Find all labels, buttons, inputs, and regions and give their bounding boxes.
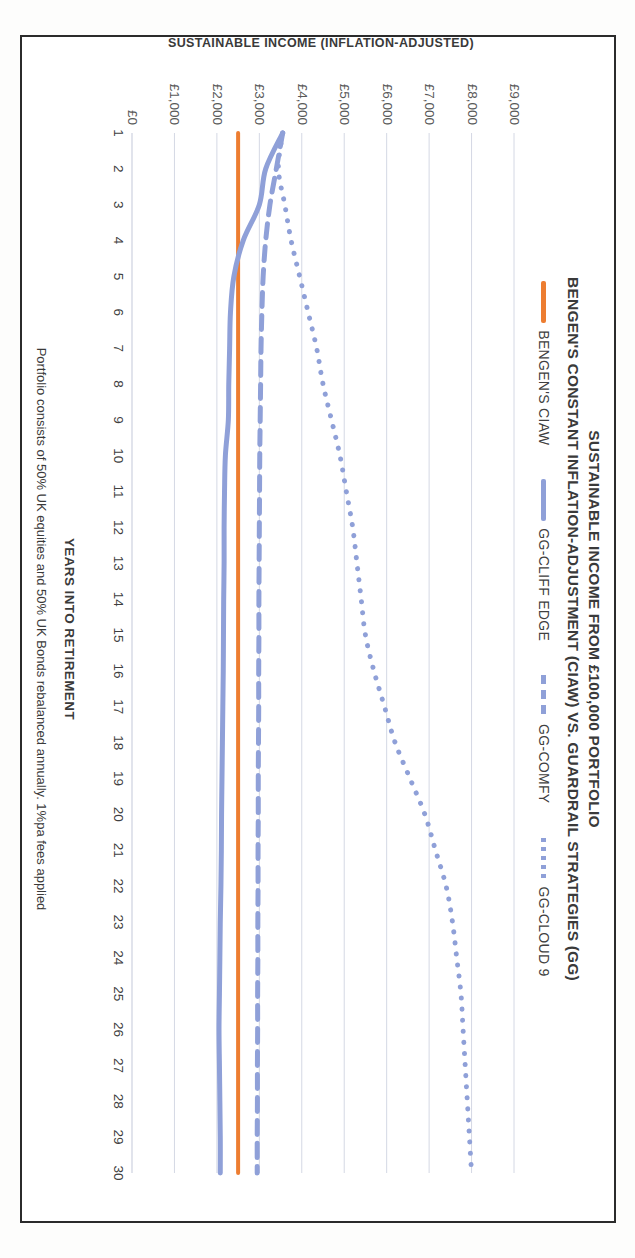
- chart-card: SUSTAINABLE INCOME FROM £100,000 PORTFOL…: [20, 35, 616, 1223]
- legend-swatch-icon: [541, 838, 546, 880]
- y-axis-tick-label: £3,000: [251, 84, 266, 125]
- x-axis-tick-label: 17: [111, 699, 126, 714]
- legend-label: GG-CLOUD 9: [536, 887, 552, 977]
- x-axis-tick-label: 26: [111, 1022, 126, 1037]
- x-axis-tick-label: 2: [111, 165, 126, 173]
- series-lines: [219, 133, 472, 1173]
- x-axis-tick-label: 1: [111, 129, 126, 137]
- legend-item[interactable]: BENGEN'S CIAW: [536, 281, 552, 445]
- x-axis-tick-label: 11: [111, 485, 126, 499]
- chart-legend: BENGEN'S CIAWGG-CLIFF EDGEGG-COMFYGG-CLO…: [536, 37, 552, 1221]
- plot-svg: [132, 133, 514, 1173]
- x-axis-tick-label: 21: [111, 843, 126, 858]
- y-axis-tick-label: £0: [124, 110, 139, 125]
- legend-swatch-icon: [541, 281, 546, 323]
- legend-label: BENGEN'S CIAW: [536, 330, 552, 445]
- y-axis-tick-label: £1,000: [166, 84, 181, 125]
- y-axis-tick-label: £5,000: [336, 84, 351, 125]
- x-axis-tick-label: 7: [111, 344, 126, 352]
- legend-swatch-icon: [541, 675, 546, 717]
- x-axis-tick-label: 5: [111, 273, 126, 281]
- x-axis-tick-label: 4: [111, 237, 126, 245]
- y-axis-tick-label: £2,000: [209, 84, 224, 125]
- chart-title-block: SUSTAINABLE INCOME FROM £100,000 PORTFOL…: [562, 37, 604, 1221]
- plot-area: £0£1,000£2,000£3,000£4,000£5,000£6,000£7…: [132, 133, 514, 1173]
- series-line: [219, 133, 283, 1173]
- y-axis-tick-label: £4,000: [294, 84, 309, 125]
- x-axis-tick-label: 10: [111, 448, 126, 463]
- x-axis-tick-label: 3: [111, 201, 126, 209]
- x-axis-title: YEARS INTO RETIREMENT: [62, 37, 77, 1221]
- x-axis-tick-label: 14: [111, 592, 126, 607]
- y-axis-tick-label: £6,000: [379, 84, 394, 125]
- series-line: [278, 133, 471, 1173]
- x-axis-tick-label: 18: [111, 735, 126, 750]
- y-axis-tick-label: £8,000: [464, 84, 479, 125]
- chart-title: SUSTAINABLE INCOME FROM £100,000 PORTFOL…: [583, 37, 604, 1221]
- legend-swatch-icon: [541, 479, 546, 521]
- x-axis-tick-label: 27: [111, 1058, 126, 1073]
- legend-label: GG-COMFY: [536, 724, 552, 803]
- rotated-chart-wrapper: SUSTAINABLE INCOME FROM £100,000 PORTFOL…: [20, 35, 616, 1223]
- page-surface: SUSTAINABLE INCOME FROM £100,000 PORTFOL…: [0, 0, 635, 1258]
- x-axis-tick-label: 24: [111, 950, 126, 965]
- x-axis-tick-label: 8: [111, 380, 126, 388]
- y-axis-tick-label: £9,000: [506, 84, 521, 125]
- x-axis-tick-label: 30: [111, 1165, 126, 1180]
- x-axis-tick-label: 9: [111, 416, 126, 424]
- x-axis-tick-label: 25: [111, 986, 126, 1001]
- x-axis-tick-label: 22: [111, 879, 126, 894]
- x-axis-tick-label: 20: [111, 807, 126, 822]
- x-axis-tick-label: 28: [111, 1094, 126, 1109]
- x-axis-tick-label: 29: [111, 1130, 126, 1145]
- legend-label: GG-CLIFF EDGE: [536, 528, 552, 641]
- chart-subtitle: BENGEN'S CONSTANT INFLATION-ADJUSTMENT (…: [562, 37, 583, 1221]
- x-axis-tick-label: 15: [111, 628, 126, 643]
- y-axis-title: SUSTAINABLE INCOME (INFLATION-ADJUSTED): [141, 36, 501, 50]
- x-axis-tick-label: 23: [111, 914, 126, 929]
- series-line: [257, 133, 282, 1173]
- x-axis-tick-label: 12: [111, 520, 126, 535]
- chart-footnote: Portfolio consists of 50% UK equities an…: [34, 37, 49, 1221]
- legend-item[interactable]: GG-CLIFF EDGE: [536, 479, 552, 641]
- x-axis-tick-label: 6: [111, 309, 126, 317]
- x-axis-tick-label: 16: [111, 663, 126, 678]
- gridlines: [132, 133, 514, 1173]
- y-axis-tick-label: £7,000: [421, 84, 436, 125]
- legend-item[interactable]: GG-CLOUD 9: [536, 838, 552, 977]
- x-axis-tick-label: 19: [111, 771, 126, 786]
- x-axis-tick-label: 13: [111, 556, 126, 571]
- legend-item[interactable]: GG-COMFY: [536, 675, 552, 803]
